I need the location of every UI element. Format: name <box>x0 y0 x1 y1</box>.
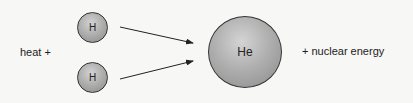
atom-symbol: He <box>237 45 252 59</box>
energy-label: + nuclear energy <box>302 45 384 57</box>
arrow-icon <box>120 27 193 43</box>
helium-atom: He <box>208 16 282 88</box>
arrow-icon <box>120 61 193 79</box>
